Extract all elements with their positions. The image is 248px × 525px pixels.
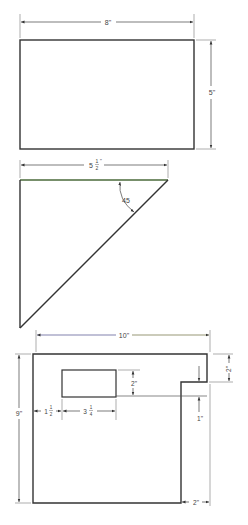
fraction-whole: 3 [83, 408, 87, 415]
cutout-rectangle [62, 370, 116, 397]
gap-dimension-label: 1" [197, 415, 204, 422]
figure-notched-plate: 10" 9" 2" 1" 2" 2" 1 [15, 330, 233, 506]
figure-rectangle: 8" 5" [20, 14, 216, 149]
cutout-width-label: 3 1 4 [83, 405, 93, 417]
fraction-numerator: 1 [90, 405, 93, 410]
fraction-numerator: 1 [50, 405, 53, 410]
fraction-unit: " [100, 158, 102, 164]
height-dimension-label: 5" [209, 89, 216, 96]
base-dimension-label: 5 1 2 " [89, 158, 102, 171]
fraction-numerator: 1 [96, 158, 99, 164]
fraction-denominator: 2 [96, 165, 99, 171]
cutout-offset-label: 1 1 2 [44, 405, 53, 417]
fraction-denominator: 4 [90, 412, 93, 417]
figure-triangle: 5 1 2 " 45 [20, 158, 168, 328]
cutout-height-dimension-label: 2" [131, 380, 138, 387]
fraction-denominator: 2 [50, 412, 53, 417]
notch-height-dimension-label: 2" [225, 365, 232, 372]
fraction-whole: 1 [44, 408, 48, 415]
width-dimension-label: 10" [119, 332, 130, 339]
technical-drawing: 8" 5" 5 1 2 " 45 [0, 0, 248, 525]
plate-outline [33, 354, 207, 503]
notch-width-dimension-label: 2" [193, 499, 200, 506]
rectangle-outline [20, 40, 194, 149]
width-dimension-label: 8" [105, 19, 112, 26]
fraction-whole: 5 [89, 162, 93, 169]
height-dimension-label: 9" [16, 410, 23, 417]
angle-label: 45 [122, 197, 130, 204]
triangle-hypotenuse [20, 180, 168, 328]
